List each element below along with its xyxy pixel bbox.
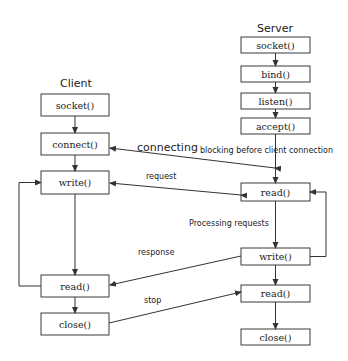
client-socket-box: socket() [41, 94, 109, 116]
client-connect-label: connect() [52, 139, 97, 150]
server-read-label: read() [261, 187, 290, 198]
server-listen-box: listen() [241, 93, 310, 109]
client-write-label: write() [59, 177, 92, 188]
server-read2-box: read() [241, 285, 310, 302]
request-label: request [146, 172, 176, 181]
client-write-box: write() [41, 171, 109, 194]
request-arrow [110, 183, 241, 195]
connecting-label: connecting [137, 141, 198, 154]
client-close-label: close() [59, 319, 91, 330]
stop-arrow [109, 292, 241, 323]
server-write-label: write() [259, 251, 292, 262]
server-write-box: write() [241, 248, 310, 265]
client-loop-arrow [19, 183, 41, 287]
server-close-box: close() [241, 329, 310, 345]
server-bind-label: bind() [261, 69, 290, 80]
client-socket-label: socket() [56, 100, 95, 111]
client-title: Client [60, 77, 93, 90]
server-close-label: close() [260, 332, 292, 343]
server-read-box: read() [241, 183, 310, 201]
client-close-box: close() [41, 313, 109, 335]
server-bind-box: bind() [241, 66, 310, 82]
processing-label: Processing requests [189, 219, 269, 228]
server-socket-label: socket() [256, 40, 295, 51]
server-socket-box: socket() [241, 37, 310, 53]
server-read2-label: read() [261, 288, 290, 299]
server-title: Server [257, 22, 294, 35]
server-accept-label: accept() [256, 121, 295, 132]
socket-flow-diagram: Client Server socket() connect() write()… [0, 0, 348, 361]
response-arrow [110, 256, 241, 285]
client-connect-box: connect() [41, 133, 109, 155]
client-read-label: read() [60, 281, 89, 292]
stop-label: stop [144, 296, 161, 305]
client-read-box: read() [41, 275, 109, 297]
response-label: response [138, 248, 174, 257]
server-listen-label: listen() [259, 96, 293, 107]
blocking-label: blocking before client connection [200, 146, 333, 155]
server-loop-arrow [310, 192, 326, 257]
server-accept-box: accept() [241, 118, 310, 134]
